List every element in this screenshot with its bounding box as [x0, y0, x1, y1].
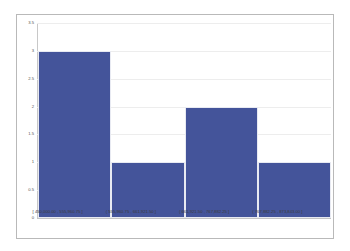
x-tick-label: ( 661,921.50 , 767,882.25 ]	[168, 205, 241, 218]
y-tick-label: 0.5	[28, 188, 34, 192]
axis-baseline	[37, 218, 331, 219]
x-axis-tick-labels: [ 450,000.00 , 555,960.75 ]( 555,960.75 …	[21, 205, 314, 218]
bar[interactable]	[185, 107, 258, 218]
x-tick-label: ( 555,960.75 , 661,921.50 ]	[94, 205, 167, 218]
x-tick-label: [ 450,000.00 , 555,960.75 ]	[21, 205, 94, 218]
plot-area: 3.532.521.510.50	[37, 23, 331, 218]
y-tick-label: 2.5	[28, 77, 34, 81]
y-tick-label: 3	[32, 49, 34, 53]
y-tick-label: 1.5	[28, 132, 34, 136]
y-tick-label: 3.5	[28, 21, 34, 25]
y-tick-label: 1	[32, 160, 34, 164]
bar[interactable]	[38, 51, 111, 218]
y-tick-label: 2	[32, 104, 34, 108]
bars-layer	[38, 23, 331, 218]
x-tick-label: ( 767,882.25 , 873,843.00 ]	[241, 205, 314, 218]
